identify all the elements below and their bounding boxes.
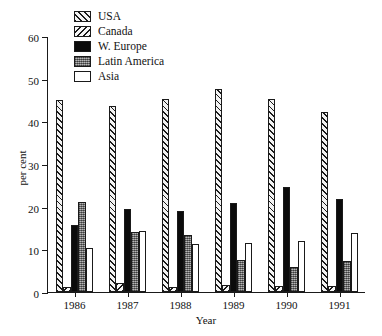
bar-canada-1991 (328, 286, 336, 292)
y-axis-tick-label: 40 (28, 118, 39, 129)
x-axis-title: Year (47, 314, 365, 326)
bar-chart: per cent 0102030405060 19861987198819891… (0, 0, 382, 336)
legend-item-canada: Canada (74, 25, 164, 38)
bar-w-europe-1991 (336, 199, 344, 292)
bar-asia-1986 (86, 248, 94, 292)
bar-latin-america-1990 (290, 267, 298, 292)
bar-asia-1990 (298, 241, 306, 292)
legend-item-latin-america: Latin America (74, 55, 164, 68)
legend-swatch-icon (74, 41, 91, 52)
legend: USACanadaW. EuropeLatin AmericaAsia (74, 10, 164, 83)
bar-canada-1986 (63, 287, 71, 292)
bar-usa-1986 (56, 100, 64, 292)
y-axis-tick-label: 0 (34, 289, 40, 300)
y-axis-tick: 60 (42, 37, 48, 38)
bar-group-1988 (162, 37, 200, 292)
bar-latin-america-1987 (131, 232, 139, 292)
bar-asia-1987 (139, 231, 147, 292)
legend-item-label: Canada (98, 26, 132, 38)
legend-item-asia: Asia (74, 70, 164, 83)
legend-swatch-icon (74, 11, 91, 22)
legend-swatch-icon (74, 56, 91, 67)
bar-w-europe-1990 (283, 187, 291, 292)
bar-latin-america-1988 (184, 235, 192, 292)
x-axis-tick-label-1989: 1989 (223, 299, 245, 311)
bar-canada-1990 (275, 286, 283, 292)
bar-canada-1987 (116, 283, 124, 292)
y-axis-tick: 10 (42, 250, 48, 251)
bar-asia-1989 (245, 243, 253, 292)
x-axis-tick-label-1990: 1990 (276, 299, 298, 311)
y-axis-tick-label: 10 (28, 246, 39, 257)
y-axis-tick-label: 20 (28, 203, 39, 214)
x-axis-tick-label-1988: 1988 (170, 299, 192, 311)
x-axis-tick (75, 292, 76, 297)
bar-usa-1991 (321, 112, 329, 292)
bar-usa-1990 (268, 99, 276, 292)
bar-w-europe-1988 (177, 211, 185, 292)
bar-usa-1987 (109, 106, 117, 292)
bar-group-1990 (268, 37, 306, 292)
bar-w-europe-1987 (124, 209, 132, 292)
legend-item-usa: USA (74, 10, 164, 23)
y-axis-tick: 0 (42, 293, 48, 294)
y-axis-tick-label: 30 (28, 161, 39, 172)
legend-swatch-icon (74, 26, 91, 37)
bar-w-europe-1989 (230, 203, 238, 292)
y-axis-tick: 50 (42, 80, 48, 81)
x-axis-tick-label-1991: 1991 (329, 299, 351, 311)
legend-swatch-icon (74, 71, 91, 82)
bar-latin-america-1991 (343, 261, 351, 292)
x-axis-tick (234, 292, 235, 297)
y-axis-tick: 20 (42, 208, 48, 209)
x-axis-tick (340, 292, 341, 297)
legend-item-label: USA (98, 11, 121, 23)
bar-w-europe-1986 (71, 225, 79, 292)
y-axis-title: per cent (16, 150, 28, 185)
legend-item-label: Latin America (98, 56, 164, 68)
x-axis-tick (128, 292, 129, 297)
y-axis-tick-label: 60 (28, 33, 39, 44)
bar-usa-1989 (215, 89, 223, 292)
bar-canada-1988 (169, 287, 177, 292)
y-axis-tick-label: 50 (28, 75, 39, 86)
y-axis-tick: 40 (42, 122, 48, 123)
bar-usa-1988 (162, 99, 170, 292)
y-axis-tick: 30 (42, 165, 48, 166)
x-axis-tick (287, 292, 288, 297)
bar-asia-1991 (351, 233, 359, 292)
bar-group-1989 (215, 37, 253, 292)
bar-canada-1989 (222, 285, 230, 292)
x-axis-tick-label-1987: 1987 (117, 299, 139, 311)
legend-item-label: W. Europe (98, 41, 147, 53)
bar-asia-1988 (192, 244, 200, 292)
x-axis-tick (181, 292, 182, 297)
bar-latin-america-1989 (237, 260, 245, 292)
x-axis-tick-label-1986: 1986 (64, 299, 86, 311)
legend-item-label: Asia (98, 71, 119, 83)
bar-latin-america-1986 (78, 202, 86, 292)
bar-group-1991 (321, 37, 359, 292)
legend-item-w-europe: W. Europe (74, 40, 164, 53)
